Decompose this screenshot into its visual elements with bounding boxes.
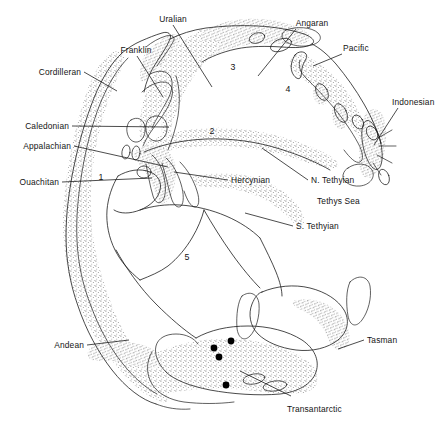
label-uralian: Uralian: [159, 14, 187, 24]
locality-marker: [211, 345, 218, 352]
region-number-3: 3: [231, 62, 236, 72]
locality-marker: [228, 338, 235, 345]
label-n-tethyian: N. Tethyian: [311, 175, 355, 185]
label-franklin: Franklin: [121, 45, 152, 55]
region-number-2: 2: [210, 126, 215, 136]
region-number-4: 4: [286, 84, 291, 94]
label-caledonian: Caledonian: [25, 121, 69, 131]
map-canvas: 1 2 3 4 5 Cordilleran Caledonian Appalac…: [0, 0, 445, 425]
region-number-5: 5: [185, 252, 190, 262]
label-cordilleran: Cordilleran: [39, 67, 81, 77]
label-indonesian: Indonesian: [392, 97, 435, 107]
label-tethys-sea: Tethys Sea: [317, 196, 360, 206]
locality-marker: [216, 354, 223, 361]
label-tasman: Tasman: [367, 335, 397, 345]
label-s-tethyian: S. Tethyian: [296, 221, 339, 231]
paleogeographic-map-figure: 1 2 3 4 5 Cordilleran Caledonian Appalac…: [0, 0, 445, 425]
locality-marker: [223, 382, 230, 389]
label-ouachitan: Ouachitan: [19, 177, 59, 187]
label-appalachian: Appalachian: [23, 141, 71, 151]
label-andean: Andean: [54, 340, 84, 350]
label-angaran: Angaran: [296, 18, 329, 28]
label-transantarctic: Transantarctic: [287, 404, 342, 414]
label-hercynian: Hercynian: [231, 175, 270, 185]
label-pacific: Pacific: [343, 43, 369, 53]
